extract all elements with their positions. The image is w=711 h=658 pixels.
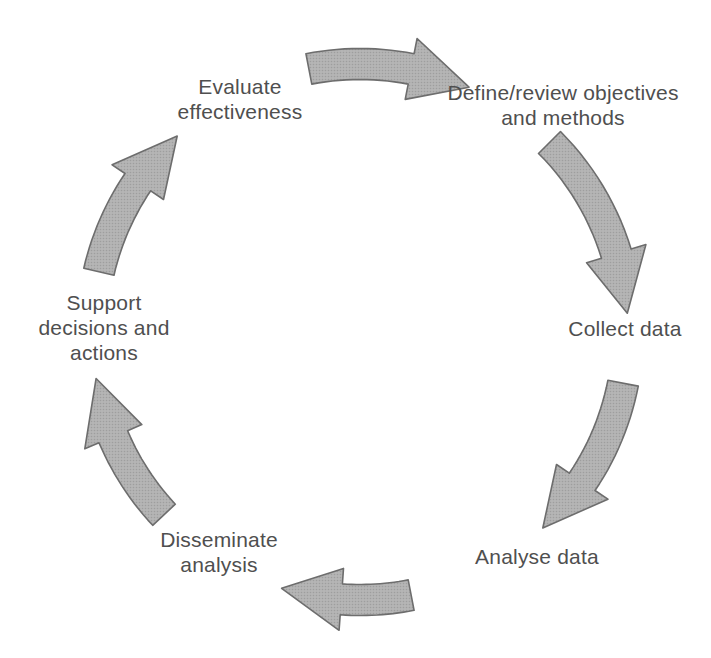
node-evaluate-effectiveness: Evaluate effectiveness xyxy=(90,74,390,124)
node-analyse-data: Analyse data xyxy=(387,544,687,569)
arrow-disseminate-to-support xyxy=(85,379,176,526)
arrow-support-to-evaluate xyxy=(84,136,177,275)
arrow-analyse-to-disseminate xyxy=(282,568,415,630)
arrow-collect-to-analyse xyxy=(543,380,639,528)
node-disseminate-analysis: Disseminate analysis xyxy=(69,527,369,577)
node-collect-data: Collect data xyxy=(475,316,711,341)
arrow-define-to-collect xyxy=(539,132,646,314)
node-define-review-objectives: Define/review objectives and methods xyxy=(413,80,711,130)
cycle-diagram: Evaluate effectiveness Define/review obj… xyxy=(0,0,711,658)
node-support-decisions: Support decisions and actions xyxy=(0,290,254,365)
